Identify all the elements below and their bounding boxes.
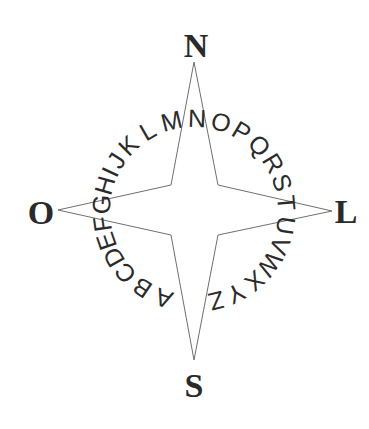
compass-rose-diagram: N L S O ABCDEFGHIJKLMNOPQRSTUVWXYZ [0,0,369,429]
ring-letter: Z [206,286,228,317]
ring-letter: N [188,104,207,133]
ring-letter: T [272,194,301,212]
ring-letter: M [158,105,185,137]
ring-letter: U [271,214,301,236]
cardinal-west-label: O [28,194,54,231]
cardinal-east-label: L [335,193,358,230]
ring-letter: A [151,283,176,315]
cardinal-north-label: N [184,27,209,64]
alphabet-ring: ABCDEFGHIJKLMNOPQRSTUVWXYZ [87,104,302,317]
cardinal-south-label: S [185,367,204,404]
compass-rose-canvas: N L S O ABCDEFGHIJKLMNOPQRSTUVWXYZ [0,0,369,429]
ring-letter: L [134,115,160,146]
